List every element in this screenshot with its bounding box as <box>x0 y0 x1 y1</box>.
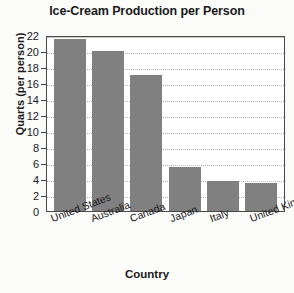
y-tick-label: 6 <box>0 158 46 170</box>
y-tick-mark <box>41 68 46 69</box>
y-tick-label: 22 <box>0 30 46 42</box>
bar-chart: Ice-Cream Production per Person Quarts (… <box>0 0 294 293</box>
y-tick-mark <box>41 100 46 101</box>
y-tick-label: 10 <box>0 126 46 138</box>
y-tick-mark <box>41 116 46 117</box>
y-tick-label: 14 <box>0 94 46 106</box>
y-axis-ticks: 0246810121416182022 <box>0 36 294 212</box>
y-tick-label: 16 <box>0 78 46 90</box>
chart-title: Ice-Cream Production per Person <box>0 4 294 18</box>
y-tick-label: 12 <box>0 110 46 122</box>
y-tick-mark <box>41 84 46 85</box>
y-tick-mark <box>41 164 46 165</box>
y-tick-mark <box>41 132 46 133</box>
y-tick-label: 4 <box>0 174 46 186</box>
y-tick-mark <box>41 148 46 149</box>
x-axis-ticks: United StatesAustraliaCanadaJapanItalyUn… <box>46 213 285 273</box>
y-tick-label: 0 <box>0 206 46 218</box>
y-tick-label: 8 <box>0 142 46 154</box>
y-tick-label: 18 <box>0 62 46 74</box>
y-tick-mark <box>41 196 46 197</box>
y-tick-label: 20 <box>0 46 46 58</box>
y-tick-label: 2 <box>0 190 46 202</box>
x-axis-title: Country <box>0 268 294 280</box>
y-tick-mark <box>41 52 46 53</box>
y-tick-mark <box>41 180 46 181</box>
